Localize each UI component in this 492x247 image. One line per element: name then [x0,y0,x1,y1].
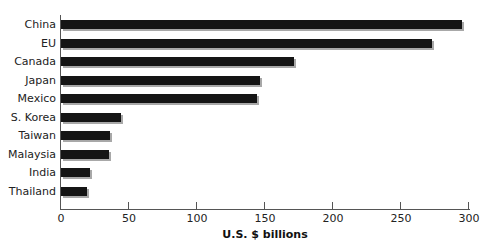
category-label: EU [0,39,56,49]
x-tick-label: 0 [41,212,81,225]
bar-canada [61,57,294,66]
x-tick-mark [196,202,197,209]
bar-malaysia [61,150,109,159]
x-tick-label: 150 [245,212,285,225]
category-label: China [0,20,56,30]
category-label: Japan [0,76,56,86]
category-label: Thailand [0,187,56,197]
bar-taiwan [61,131,110,140]
x-tick-label: 300 [449,212,489,225]
x-tick-mark [264,202,265,209]
bar-china [61,20,462,29]
x-tick-mark [60,202,61,209]
bar-mexico [61,94,257,103]
category-label: Mexico [0,94,56,104]
x-tick-label: 250 [381,212,421,225]
category-label: Taiwan [0,131,56,141]
category-label: S. Korea [0,113,56,123]
category-label: Canada [0,57,56,67]
x-tick-mark [128,202,129,209]
bar-japan [61,76,260,85]
category-label: Malaysia [0,150,56,160]
x-axis [60,209,470,210]
bar-s-korea [61,113,121,122]
bar-chart: 050100150200250300 ChinaEUCanadaJapanMex… [0,0,492,247]
x-tick-mark [332,202,333,209]
x-tick-label: 200 [313,212,353,225]
x-tick-mark [468,202,469,209]
x-tick-label: 100 [177,212,217,225]
x-axis-title: U.S. $ billions [215,228,315,241]
category-label: India [0,168,56,178]
bar-thailand [61,187,87,196]
bar-india [61,168,90,177]
x-tick-mark [400,202,401,209]
bar-eu [61,39,432,48]
x-tick-label: 50 [109,212,149,225]
